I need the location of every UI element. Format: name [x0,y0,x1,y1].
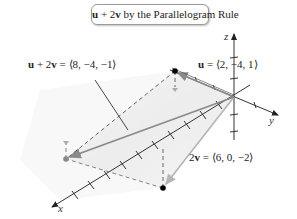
2v-tip-point [160,185,166,191]
sum-vector-label: u + 2v = ⟨8, −4, −1⟩ [28,58,116,71]
u-tip-point [172,68,178,74]
2v-vector-label: 2v = ⟨6, 0, −2⟩ [189,151,253,164]
diagram-title: u + 2v by the Parallelogram Rule [91,4,209,25]
y-axis-label: y [269,114,274,126]
u-vector-label: u = ⟨2, −4, 1⟩ [198,58,258,71]
parallelogram-diagram [0,0,297,219]
x-axis-label: x [58,202,63,214]
sum-tip-point [63,156,69,162]
z-axis-label: z [224,30,228,42]
